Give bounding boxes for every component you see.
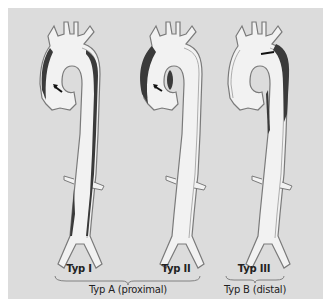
label-typ-1: Typ I [66, 263, 92, 274]
label-typ-3: Typ III [238, 263, 271, 274]
label-typ-2: Typ II [161, 263, 190, 274]
aorta-typ-2 [140, 22, 206, 268]
aorta-typ-1 [40, 22, 104, 268]
brace-typ-b [226, 276, 284, 283]
label-typ-b: Typ B (distal) [224, 284, 286, 295]
aorta-illustrations [0, 0, 328, 307]
aorta-typ-3 [228, 22, 292, 268]
label-typ-a: Typ A (proximal) [89, 284, 167, 295]
